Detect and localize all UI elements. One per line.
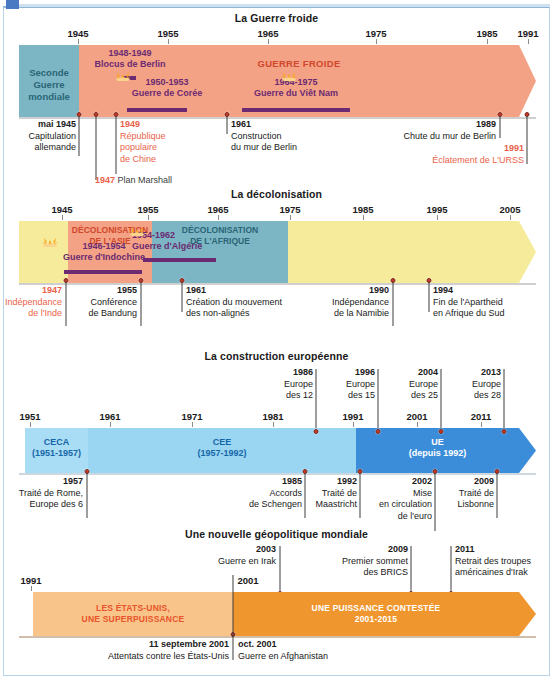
segment-label: UE (depuis 1992): [356, 437, 519, 460]
axis-tick: [168, 39, 169, 44]
event-year: oct. 2001: [238, 639, 378, 651]
event-year: 1992: [309, 476, 357, 488]
axis-label: 1955: [137, 204, 158, 215]
axis-construction-europeenne: 1951 1961 1971 1981 1991 2001 2011: [0, 407, 553, 427]
axis-tick: [192, 422, 193, 427]
axis-tick: [417, 422, 418, 427]
event-2009-lisbonne: 2009Traité de Lisbonne: [440, 476, 494, 511]
axis-tick: [110, 422, 111, 427]
event-leader: [497, 473, 498, 518]
event-year: 1955: [72, 285, 137, 297]
event-year: 2009: [440, 476, 494, 488]
event-dot[interactable]: [439, 429, 444, 434]
war-years: 1948-1949: [108, 48, 151, 58]
arrowhead-icon: [519, 428, 536, 473]
event-text: Construction du mur de Berlin: [231, 131, 297, 153]
axis-tick: [218, 215, 219, 220]
sunburst-icon: [281, 70, 297, 81]
event-text: Attentats contre les États-Unis: [108, 651, 229, 661]
war-name: Guerre de Corée: [132, 88, 203, 98]
segment-label: LES ÉTATS-UNIS, UNE SUPERPUISSANCE: [33, 603, 233, 624]
event-year: 2004: [390, 367, 438, 379]
axis-label: 1991: [342, 411, 363, 422]
axis-tick: [353, 422, 354, 427]
event-leader: [96, 116, 97, 180]
event-2002-euro: 2002Mise en circulation de l'euro: [364, 476, 432, 522]
event-text: Traité de Rome, Europe des 6: [19, 488, 83, 510]
axis-label: 1985: [352, 204, 373, 215]
axis-label: 1965: [257, 28, 278, 39]
event-year: 1990: [318, 285, 389, 297]
segment-etats-unis-superpuissance: LES ÉTATS-UNIS, UNE SUPERPUISSANCE: [33, 592, 233, 636]
axis-label: 1985: [476, 28, 497, 39]
sunburst-icon: [115, 70, 131, 81]
axis-tick: [62, 215, 63, 220]
event-leader: [141, 282, 142, 326]
event-year: 2003: [200, 544, 276, 556]
axis-label: 1945: [67, 28, 88, 39]
axis-tick: [510, 215, 511, 220]
event-leader: [87, 473, 88, 518]
event-leader: [360, 473, 361, 518]
segment-ceca: CECA (1951-1957): [25, 428, 88, 473]
axis-tick: [290, 215, 291, 220]
event-leader: [527, 116, 528, 164]
event-1947-plan-marshall: 1947 Plan Marshall: [0, 175, 172, 187]
event-year: 1947: [0, 285, 62, 297]
axis-label: 1955: [157, 28, 178, 39]
segment-ue: UE (depuis 1992): [356, 428, 519, 473]
arrowhead-icon: [519, 45, 536, 117]
event-leader: [233, 575, 234, 637]
event-dot[interactable]: [376, 429, 381, 434]
axis-label: 1971: [181, 411, 202, 422]
war-name: Blocus de Berlin: [94, 59, 165, 69]
event-dot[interactable]: [502, 429, 507, 434]
event-leader: [233, 636, 234, 660]
event-text: Éclatement de L'URSS: [432, 155, 524, 165]
event-11-septembre-2001: 11 septembre 2001Attentats contre les Ét…: [100, 639, 229, 662]
event-year: 2009: [330, 544, 408, 556]
band-baseline: [19, 473, 536, 475]
event-1961-non-alignes: 1961Création du mouvement des non-aligné…: [186, 285, 336, 320]
event-leader: [66, 282, 67, 326]
event-year: 1996: [327, 367, 375, 379]
event-1990-namibie: 1990Indépendance de la Namibie: [318, 285, 389, 320]
segment-label: Seconde Guerre mondiale: [19, 67, 79, 103]
axis-tick: [30, 422, 31, 427]
event-text: Guerre en Irak: [218, 556, 276, 566]
event-year: 1947: [95, 175, 115, 185]
event-year: 1991: [360, 143, 524, 155]
segment-cee: CEE (1957-1992): [88, 428, 356, 473]
event-year: 1957: [0, 476, 83, 488]
axis-label: 2011: [471, 411, 492, 422]
event-dot[interactable]: [314, 429, 319, 434]
axis-label: 2001: [406, 411, 427, 422]
event-year: 2011: [455, 544, 551, 556]
event-1989-chute-mur: 1989Chute du mur de Berlin: [330, 119, 496, 142]
war-bar-guerre-coree: [127, 108, 187, 112]
event-text: Traité de Lisbonne: [457, 488, 494, 510]
band-baseline: [19, 636, 536, 638]
axis-tick: [437, 215, 438, 220]
event-leader: [79, 116, 80, 156]
event-1985-schengen: 1985Accords de Schengen: [232, 476, 302, 511]
event-text: Europe des 15: [346, 379, 375, 401]
event-year: 2013: [453, 367, 501, 379]
axis-tick: [31, 586, 32, 591]
event-2003-guerre-irak: 2003Guerre en Irak: [200, 544, 276, 567]
timeline-title: Une nouvelle géopolitique mondiale: [0, 528, 553, 540]
event-year: 2002: [364, 476, 432, 488]
axis-tick: [148, 215, 149, 220]
arrowhead-icon: [519, 221, 536, 283]
axis-geopolitique-mondiale: 1991 2001: [0, 571, 553, 591]
war-years: 1950-1953: [145, 77, 188, 87]
event-text: Indépendance de l'Inde: [5, 297, 62, 319]
axis-label: 1975: [365, 28, 386, 39]
event-year: mai 1945: [0, 119, 76, 131]
timeline-guerre-froide: La Guerre froide 1945 1955 1965 1975 198…: [0, 12, 553, 24]
axis-label: 1951: [19, 411, 40, 422]
event-leader: [429, 282, 430, 312]
axis-label: 1975: [279, 204, 300, 215]
event-1991-eclatement-urss: 1991Éclatement de L'URSS: [360, 143, 524, 166]
axis-tick: [481, 422, 482, 427]
